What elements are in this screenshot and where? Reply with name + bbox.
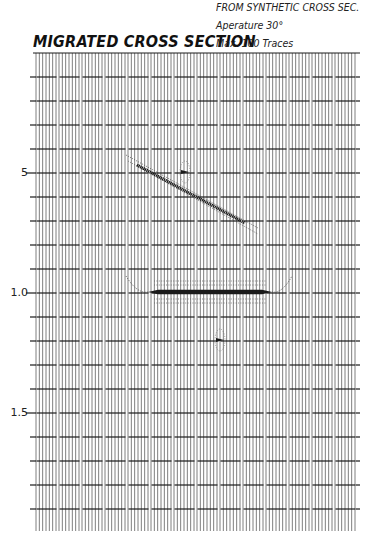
seismic-section-plot: [0, 0, 374, 547]
time-axis-ticks: [26, 173, 30, 413]
